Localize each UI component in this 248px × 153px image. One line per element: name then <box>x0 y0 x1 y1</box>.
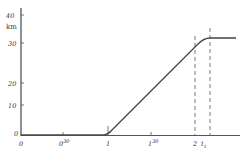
distance-curve <box>21 38 236 135</box>
x-label-1: 1 <box>106 140 110 148</box>
y-label-30: 30 <box>8 40 16 48</box>
y-unit-label: km <box>6 23 17 31</box>
x-label-0-30: 030 <box>59 138 70 148</box>
y-label-0: 0 <box>14 130 18 138</box>
x-label-0: 0 <box>19 140 23 148</box>
y-label-10: 10 <box>8 102 16 110</box>
y-label-40: 40 <box>5 12 14 20</box>
x-label-1-30: 130 <box>148 138 159 148</box>
x-label-t1: t1 <box>201 140 207 149</box>
distance-time-chart: 40 km 30 20 10 0 0 030 1 130 2 t1 <box>0 0 248 153</box>
y-label-20: 20 <box>7 80 16 88</box>
x-label-2: 2 <box>192 140 197 148</box>
